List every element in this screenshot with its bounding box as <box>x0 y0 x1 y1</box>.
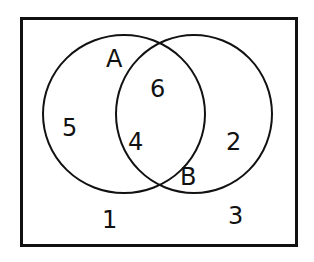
region-only-b: 2 <box>226 128 241 156</box>
region-a-and-b-top: 6 <box>150 75 165 103</box>
region-a-and-b-bottom: 4 <box>128 128 143 156</box>
region-outside-right: 3 <box>228 202 243 230</box>
set-b-label: B <box>180 163 196 191</box>
region-only-a: 5 <box>62 114 77 142</box>
venn-diagram: A B 6 4 5 2 1 3 <box>0 0 314 262</box>
region-outside-left: 1 <box>102 206 117 234</box>
set-a-label: A <box>106 45 123 73</box>
